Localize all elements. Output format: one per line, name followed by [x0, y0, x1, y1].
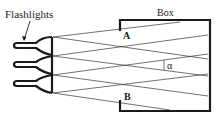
flashlight-middle	[14, 55, 52, 74]
flashlight-bottom	[14, 74, 52, 93]
angle-alpha-label: α	[167, 60, 173, 71]
arrowhead-icon	[22, 36, 27, 41]
box	[120, 20, 210, 111]
point-b-label: B	[124, 91, 131, 102]
point-a-label: A	[123, 30, 131, 41]
flashlights-box-diagram: Flashlights Box A B α	[0, 0, 222, 119]
flashlights-label: Flashlights	[5, 8, 53, 20]
box-label: Box	[157, 7, 174, 18]
flashlight-top	[14, 37, 52, 55]
